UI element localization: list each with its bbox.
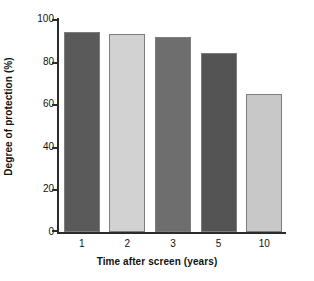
bar bbox=[109, 34, 145, 232]
y-tick-label: 100 bbox=[18, 14, 54, 24]
x-tick-label: 5 bbox=[216, 238, 222, 250]
bar bbox=[246, 94, 282, 232]
y-tick-label: 20 bbox=[18, 184, 54, 194]
y-tick-label: 60 bbox=[18, 99, 54, 109]
plot-area bbox=[57, 19, 285, 232]
y-tick-label: 0 bbox=[18, 227, 54, 237]
x-axis-line bbox=[57, 232, 286, 234]
bars-layer bbox=[57, 19, 285, 232]
y-tick-label: 80 bbox=[18, 57, 54, 67]
y-tick-label: 40 bbox=[18, 142, 54, 152]
x-tick-label: 10 bbox=[259, 238, 270, 250]
x-axis-tick-labels: 123510 bbox=[57, 238, 285, 252]
x-axis-title: Time after screen (years) bbox=[0, 256, 314, 267]
y-axis-tick-labels: 100 80 60 40 20 0 bbox=[18, 0, 54, 281]
x-tick-label: 3 bbox=[170, 238, 176, 250]
bar bbox=[155, 37, 191, 232]
x-tick-label: 2 bbox=[125, 238, 131, 250]
bar-chart-figure: Degree of protection (%) 100 80 60 40 20… bbox=[0, 0, 314, 281]
y-axis-title: Degree of protection (%) bbox=[0, 0, 16, 232]
bar bbox=[64, 32, 100, 232]
bar bbox=[201, 53, 237, 232]
x-tick-label: 1 bbox=[79, 238, 85, 250]
y-axis-title-text: Degree of protection (%) bbox=[3, 57, 14, 176]
